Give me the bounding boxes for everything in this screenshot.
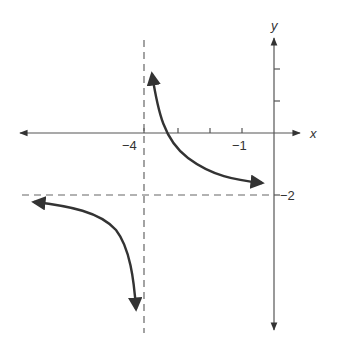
curve-right-branch	[152, 74, 262, 183]
x-ticks	[144, 128, 242, 133]
y-axis-label: y	[270, 18, 279, 33]
tick-label-neg2: −2	[280, 188, 295, 203]
tick-label-neg4: −4	[122, 138, 137, 153]
graph: −4 −1 −2 x y	[0, 0, 343, 342]
x-axis-label: x	[309, 126, 317, 141]
curve-left-branch	[34, 202, 136, 309]
tick-label-neg1: −1	[232, 138, 247, 153]
y-ticks	[274, 69, 280, 195]
